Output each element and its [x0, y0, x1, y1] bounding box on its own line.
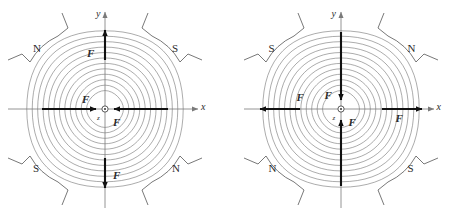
pole-label-top-right: S: [172, 43, 178, 54]
panel-right: S N N S y x z F F F F: [236, 0, 471, 218]
panel-left: N S S N y x z F F F F: [0, 0, 236, 218]
origin-marker-left: [102, 106, 108, 112]
force-label-up: F: [87, 48, 94, 59]
force-label-left: F: [82, 94, 89, 105]
pole-label-bottom-left: S: [33, 163, 39, 174]
y-axis-label: y: [332, 9, 336, 19]
pole-label-top-left: N: [33, 43, 41, 54]
origin-marker-right: [337, 106, 343, 112]
pole-label-bottom-right: N: [172, 163, 180, 174]
z-axis-label: z: [97, 115, 100, 122]
pole-label-top-right: N: [408, 43, 416, 54]
x-axis-label: x: [437, 102, 441, 112]
force-label-right: F: [113, 117, 120, 128]
force-label-left: F: [297, 92, 304, 103]
z-axis-label: z: [333, 115, 336, 122]
force-label-right: F: [396, 113, 403, 124]
y-axis-label: y: [96, 9, 100, 19]
x-axis-label: x: [201, 102, 205, 112]
quadrupole-figure: N S S N y x z F F F F: [0, 0, 471, 218]
force-label-down: F: [349, 117, 356, 128]
force-label-down: F: [113, 170, 120, 181]
pole-label-bottom-left: N: [269, 163, 277, 174]
pole-label-bottom-right: S: [408, 163, 414, 174]
force-label-up: F: [325, 90, 332, 101]
pole-label-top-left: S: [269, 43, 275, 54]
